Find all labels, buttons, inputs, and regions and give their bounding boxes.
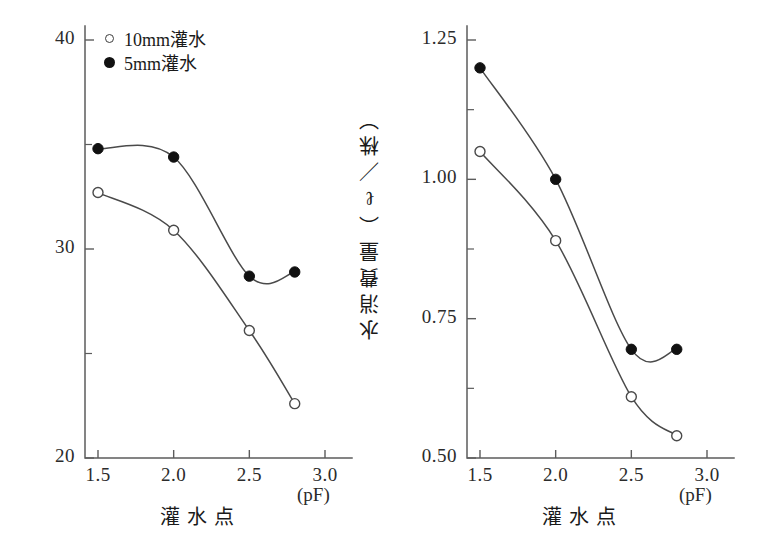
x-axis-title-right: 灌水点 <box>542 501 623 530</box>
y-tick-label: 30 <box>7 236 75 258</box>
data-point-open <box>551 236 561 246</box>
y-axis-title-left: 切り花重（g） <box>0 125 2 340</box>
x-axis-unit-right: (pF) <box>679 484 712 506</box>
y-axis-title-right: 水消費量（ℓ／株） <box>355 125 384 340</box>
chart-panel-left: 10mm灌水 5mm灌水 切り花重（g） 灌水点 (pF) 2030401.52… <box>0 0 382 549</box>
data-point-open <box>672 431 682 441</box>
data-curve-10mm <box>98 193 295 404</box>
filled-circle-marker-icon <box>98 57 120 68</box>
data-point-filled <box>290 267 300 277</box>
x-tick-label: 2.0 <box>144 464 204 486</box>
legend-left: 10mm灌水 5mm灌水 <box>98 26 206 74</box>
data-curve-5mm <box>98 145 295 284</box>
axis-spine <box>467 26 734 458</box>
data-point-open <box>475 146 485 156</box>
y-tick-label: 40 <box>7 27 75 49</box>
legend-item-5mm: 5mm灌水 <box>98 50 206 74</box>
data-curve-5mm <box>480 68 677 362</box>
data-point-filled <box>93 143 103 153</box>
y-tick-label: 1.25 <box>389 27 457 49</box>
data-point-filled <box>626 344 636 354</box>
data-point-open <box>244 326 254 336</box>
figure-root: 10mm灌水 5mm灌水 切り花重（g） 灌水点 (pF) 2030401.52… <box>0 0 764 549</box>
data-point-open <box>626 392 636 402</box>
x-tick-label: 1.5 <box>450 464 510 486</box>
chart-panel-right: 水消費量（ℓ／株） 灌水点 (pF) 0.500.751.001.251.52.… <box>382 0 764 549</box>
y-tick-label: 0.75 <box>389 306 457 328</box>
data-point-open <box>93 188 103 198</box>
data-point-filled <box>244 271 254 281</box>
open-circle-marker-icon <box>98 34 120 43</box>
data-point-open <box>290 399 300 409</box>
legend-item-10mm: 10mm灌水 <box>98 26 206 50</box>
data-curve-10mm <box>480 151 677 435</box>
data-point-filled <box>475 63 485 73</box>
y-tick-label: 20 <box>7 445 75 467</box>
x-axis-unit-left: (pF) <box>297 484 330 506</box>
x-tick-label: 2.0 <box>526 464 586 486</box>
data-point-filled <box>168 152 178 162</box>
legend-label-10mm: 10mm灌水 <box>124 25 206 51</box>
data-point-filled <box>672 344 682 354</box>
x-tick-label: 2.5 <box>601 464 661 486</box>
data-point-filled <box>550 174 560 184</box>
data-point-open <box>169 225 179 235</box>
y-tick-label: 1.00 <box>389 166 457 188</box>
x-tick-label: 3.0 <box>295 464 355 486</box>
x-tick-label: 3.0 <box>677 464 737 486</box>
y-tick-label: 0.50 <box>389 445 457 467</box>
x-tick-label: 1.5 <box>68 464 128 486</box>
legend-label-5mm: 5mm灌水 <box>124 49 197 75</box>
axis-spine <box>85 26 352 458</box>
x-axis-title-left: 灌水点 <box>160 501 241 530</box>
x-tick-label: 2.5 <box>219 464 279 486</box>
